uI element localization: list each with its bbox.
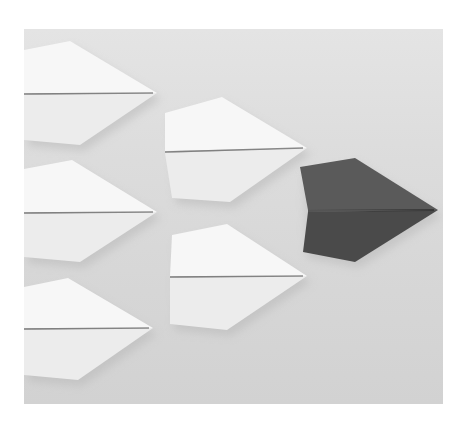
white-paper-airplane [24,160,157,262]
white-paper-airplane [170,224,307,330]
paper-airplanes-photo [24,29,443,404]
white-paper-airplane [24,41,157,145]
white-paper-airplane [165,97,307,202]
dark-paper-airplane [300,158,438,262]
airplanes-illustration [24,29,443,404]
white-paper-airplane [24,278,153,380]
